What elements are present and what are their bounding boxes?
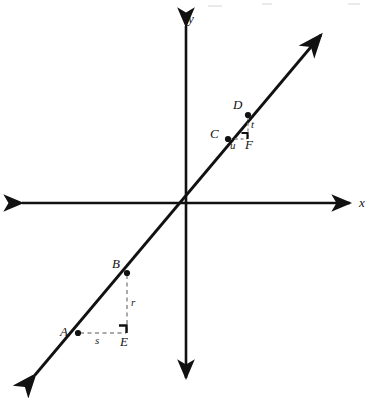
point-label-C: C: [210, 127, 219, 140]
geometry-figure: [0, 0, 382, 398]
point-label-B: B: [112, 257, 120, 270]
point-label-D: D: [233, 98, 242, 111]
segment-label-s: s: [95, 335, 99, 346]
x-axis-label: x: [359, 196, 365, 209]
y-axis-label: y: [188, 12, 194, 25]
segment-label-t: t: [251, 119, 254, 130]
point-B: [124, 270, 130, 276]
point-label-E: E: [120, 335, 128, 348]
diagram-canvas: A B E C D F s r u t x y: [0, 0, 382, 398]
right-angle-mark-E: [119, 326, 127, 334]
point-label-A: A: [60, 325, 68, 338]
segment-label-u: u: [230, 140, 236, 151]
point-A: [75, 330, 81, 336]
slope-line: [35, 35, 321, 375]
point-label-F: F: [245, 138, 253, 151]
segment-label-r: r: [131, 297, 135, 308]
